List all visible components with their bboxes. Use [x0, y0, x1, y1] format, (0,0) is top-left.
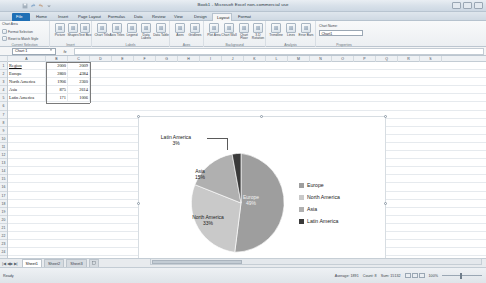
- horizontal-scroll-thumb[interactable]: [152, 260, 242, 264]
- chevron-down-icon[interactable]: [49, 48, 53, 55]
- row-header-16[interactable]: 16: [0, 183, 7, 191]
- cell-B5[interactable]: 171: [46, 94, 68, 102]
- table-row[interactable]: Latin America 171 1006: [8, 94, 486, 102]
- data-label-asia[interactable]: Asia 15%: [187, 169, 213, 181]
- tab-insert[interactable]: Insert: [54, 13, 72, 22]
- plot-area-button[interactable]: Plot Area: [206, 23, 222, 37]
- worksheet-grid[interactable]: A B C D E F G H I J K L M N O P Q R S 1 …: [0, 56, 486, 258]
- resize-handle-ne[interactable]: [384, 115, 387, 118]
- tab-formulas[interactable]: Formulas: [104, 13, 128, 22]
- last-sheet-icon[interactable]: ▶|: [14, 261, 18, 266]
- reset-to-match-style-button[interactable]: Reset to Match Style: [2, 36, 38, 41]
- first-sheet-icon[interactable]: |◀: [2, 261, 6, 266]
- cell-B1[interactable]: 2000: [46, 62, 68, 70]
- data-label-latin-america[interactable]: Latin America 3%: [145, 135, 207, 147]
- chart-object[interactable]: Latin America 3% Asia 15% North America …: [138, 116, 386, 258]
- resize-handle-n[interactable]: [260, 115, 263, 118]
- row-header-4[interactable]: 4: [0, 86, 7, 94]
- page-break-view-icon[interactable]: [419, 273, 425, 278]
- new-sheet-icon[interactable]: [89, 259, 99, 267]
- tab-layout[interactable]: Layout: [212, 13, 232, 22]
- zoom-slider[interactable]: [442, 275, 482, 276]
- horizontal-scrollbar[interactable]: [150, 258, 482, 265]
- tab-home[interactable]: Home: [32, 13, 52, 22]
- cell-A3[interactable]: North America: [8, 78, 46, 86]
- cell-B3[interactable]: 1906: [46, 78, 68, 86]
- sheet-nav-arrows[interactable]: |◀ ◀ ▶ ▶|: [2, 261, 18, 266]
- resize-handle-e[interactable]: [384, 202, 387, 205]
- ribbon-tab-strip[interactable]: File Home Insert Page Layout Formulas Da…: [0, 12, 486, 21]
- sheet-tab-sheet2[interactable]: Sheet2: [44, 259, 64, 267]
- table-row[interactable]: Europe 2860 4384: [8, 70, 486, 78]
- row-header-23[interactable]: 23: [0, 240, 7, 248]
- tab-view[interactable]: View: [170, 13, 186, 22]
- cell-C2[interactable]: 4384: [68, 70, 90, 78]
- cell-A1[interactable]: Region: [8, 62, 46, 70]
- cell-A5[interactable]: Latin America: [8, 94, 46, 102]
- sheet-tab-sheet1[interactable]: Sheet1: [22, 259, 42, 267]
- row-header-17[interactable]: 17: [0, 192, 7, 200]
- row-header-20[interactable]: 20: [0, 216, 7, 224]
- view-buttons[interactable]: [405, 273, 425, 278]
- row-header-22[interactable]: 22: [0, 232, 7, 240]
- gridlines-button[interactable]: Gridlines: [187, 23, 203, 37]
- row-header-6[interactable]: 6: [0, 102, 7, 110]
- rotation-3d-button[interactable]: 3-D Rotation: [250, 23, 266, 41]
- cell-C4[interactable]: 2614: [68, 86, 90, 94]
- window-controls[interactable]: [452, 2, 483, 9]
- row-header-13[interactable]: 13: [0, 159, 7, 167]
- cell-C5[interactable]: 1006: [68, 94, 90, 102]
- row-header-3[interactable]: 3: [0, 78, 7, 86]
- tab-file[interactable]: File: [12, 13, 30, 22]
- tab-review[interactable]: Review: [148, 13, 168, 22]
- row-header-9[interactable]: 9: [0, 127, 7, 135]
- row-header-1[interactable]: 1: [0, 62, 7, 70]
- row-header-21[interactable]: 21: [0, 224, 7, 232]
- row-header-24[interactable]: 24: [0, 248, 7, 256]
- selection-dropdown[interactable]: Chart Area: [2, 22, 18, 26]
- row-header-11[interactable]: 11: [0, 143, 7, 151]
- data-table-button[interactable]: Data Table: [153, 23, 169, 37]
- row-header-18[interactable]: 18: [0, 200, 7, 208]
- sheet-tab-sheet3[interactable]: Sheet3: [66, 259, 86, 267]
- legend-item-asia[interactable]: Asia: [299, 203, 381, 215]
- row-header-2[interactable]: 2: [0, 70, 7, 78]
- table-row[interactable]: North America 1906 2360: [8, 78, 486, 86]
- tab-page-layout[interactable]: Page Layout: [74, 13, 102, 22]
- legend-item-north-america[interactable]: North America: [299, 191, 381, 203]
- insert-function-icon[interactable]: fx: [56, 49, 74, 54]
- chart-wall-button[interactable]: Chart Wall: [221, 23, 237, 37]
- row-header-8[interactable]: 8: [0, 119, 7, 127]
- resize-handle-nw[interactable]: [137, 115, 140, 118]
- error-bars-button[interactable]: Error Bars: [298, 23, 314, 37]
- cell-C3[interactable]: 2360: [68, 78, 90, 86]
- minimize-button[interactable]: [452, 2, 461, 9]
- tab-data[interactable]: Data: [130, 13, 146, 22]
- trendline-button[interactable]: Trendline: [268, 23, 284, 37]
- page-layout-view-icon[interactable]: [412, 273, 418, 278]
- row-header-12[interactable]: 12: [0, 151, 7, 159]
- cell-A4[interactable]: Asia: [8, 86, 46, 94]
- row-header-5[interactable]: 5: [0, 94, 7, 102]
- cell-C1[interactable]: 2009: [68, 62, 90, 70]
- table-row[interactable]: Asia 875 2614: [8, 86, 486, 94]
- row-header-7[interactable]: 7: [0, 111, 7, 119]
- chart-legend[interactable]: Europe North America Asia Latin America: [299, 179, 381, 227]
- name-box[interactable]: Chart 1: [12, 48, 56, 55]
- legend-item-europe[interactable]: Europe: [299, 179, 381, 191]
- data-label-europe[interactable]: Europe 49%: [235, 195, 267, 207]
- chart-title-button[interactable]: Chart Title: [94, 23, 110, 37]
- lines-button[interactable]: Lines: [283, 23, 299, 37]
- row-header-10[interactable]: 10: [0, 135, 7, 143]
- chart-name-input[interactable]: Chart1: [319, 30, 363, 36]
- data-labels-button[interactable]: Data Labels: [138, 23, 154, 41]
- normal-view-icon[interactable]: [405, 273, 411, 278]
- cell-B2[interactable]: 2860: [46, 70, 68, 78]
- restore-button[interactable]: [463, 2, 472, 9]
- legend-item-latin-america[interactable]: Latin America: [299, 215, 381, 227]
- cell-B4[interactable]: 875: [46, 86, 68, 94]
- tab-format[interactable]: Format: [234, 13, 254, 22]
- row-header-14[interactable]: 14: [0, 167, 7, 175]
- zoom-level[interactable]: 100%: [429, 274, 438, 278]
- resize-handle-w[interactable]: [137, 202, 140, 205]
